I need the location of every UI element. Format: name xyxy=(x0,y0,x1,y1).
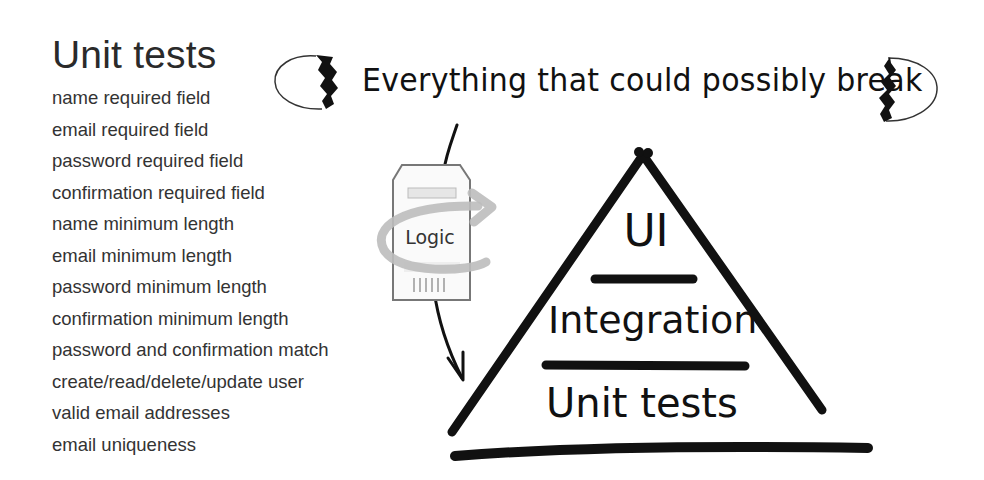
level-divider-bottom xyxy=(546,365,745,366)
headline: Everything that could possibly break xyxy=(362,61,923,98)
pyramid-level-integration: Integration xyxy=(548,298,748,342)
broken-egg-shell-left-icon xyxy=(275,55,338,109)
logic-label: Logic xyxy=(400,226,460,248)
pyramid-base-line xyxy=(455,447,868,456)
pyramid-level-ui: UI xyxy=(606,205,686,256)
pyramid-level-unit-tests: Unit tests xyxy=(542,380,742,426)
